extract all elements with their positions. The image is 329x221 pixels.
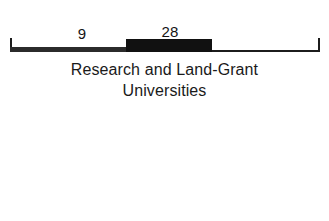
bar-segment-28: [126, 39, 212, 52]
bar-segment-9: [10, 47, 128, 52]
axis-tick-right: [318, 38, 320, 52]
bar-chart-figure: 9 28 Research and Land-Grant Universitie…: [0, 0, 329, 221]
bar-track: [0, 36, 329, 54]
chart-caption: Research and Land-Grant Universities: [0, 59, 329, 101]
caption-line-1: Research and Land-Grant: [0, 59, 329, 80]
caption-line-2: Universities: [0, 80, 329, 101]
